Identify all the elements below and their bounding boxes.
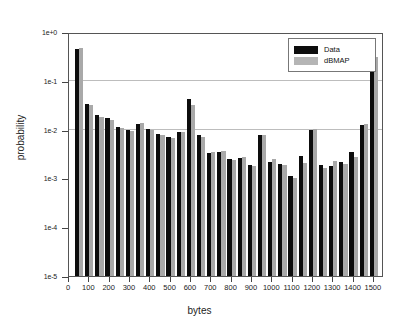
- x-tick-mark: [353, 277, 354, 282]
- bar-dbmap: [130, 131, 134, 276]
- x-tick-label: 100: [82, 283, 95, 292]
- bar-group: [146, 34, 154, 276]
- legend-item-dbmap: dBMAP: [294, 56, 370, 65]
- x-tick-mark: [88, 277, 89, 282]
- bar-group: [105, 34, 113, 276]
- bar-dbmap: [120, 128, 124, 276]
- bar-group: [166, 34, 174, 276]
- x-tick-label: 800: [224, 283, 237, 292]
- bar-dbmap: [374, 57, 378, 276]
- x-tick-label: 600: [184, 283, 197, 292]
- bar-dbmap: [160, 135, 164, 276]
- bar-dbmap: [221, 151, 225, 276]
- bar-dbmap: [89, 105, 93, 276]
- x-tick-mark: [109, 277, 110, 282]
- x-axis-title: bytes: [0, 305, 399, 316]
- x-tick-label: 1000: [263, 283, 280, 292]
- x-tick-mark: [373, 277, 374, 282]
- legend-swatch-dbmap-icon: [294, 57, 318, 65]
- bar-group: [75, 34, 83, 276]
- x-tick-label: 300: [123, 283, 136, 292]
- bar-dbmap: [313, 129, 317, 276]
- x-tick-mark: [292, 277, 293, 282]
- y-tick-label: 1e-5: [44, 273, 57, 280]
- legend-label-dbmap: dBMAP: [324, 56, 349, 65]
- bar-dbmap: [354, 157, 358, 276]
- x-tick-mark: [251, 277, 252, 282]
- bar-group: [258, 34, 266, 276]
- bar-dbmap: [232, 160, 236, 276]
- x-tick-mark: [68, 277, 69, 282]
- bar-group: [116, 34, 124, 276]
- bar-group: [156, 34, 164, 276]
- bar-group: [197, 34, 205, 276]
- bar-dbmap: [79, 48, 83, 276]
- bar-dbmap: [333, 161, 337, 276]
- bar-group: [187, 34, 195, 276]
- bar-dbmap: [252, 166, 256, 276]
- bar-dbmap: [211, 152, 215, 276]
- bar-dbmap: [242, 157, 246, 276]
- bar-dbmap: [272, 159, 276, 276]
- bar-dbmap: [150, 130, 154, 276]
- x-tick-mark: [190, 277, 191, 282]
- legend-item-data: Data: [294, 45, 370, 54]
- bar-dbmap: [191, 105, 195, 276]
- bar-dbmap: [262, 135, 266, 276]
- bar-group: [278, 34, 286, 276]
- y-tick-label: 1e-1: [44, 78, 57, 85]
- bar-dbmap: [181, 132, 185, 276]
- bar-dbmap: [99, 117, 103, 276]
- bar-dbmap: [323, 168, 327, 276]
- bar-group: [95, 34, 103, 276]
- bar-group: [238, 34, 246, 276]
- bar-group: [85, 34, 93, 276]
- x-tick-label: 0: [66, 283, 70, 292]
- x-tick-label: 500: [163, 283, 176, 292]
- bar-dbmap: [201, 137, 205, 276]
- bar-dbmap: [343, 164, 347, 276]
- bar-dbmap: [140, 123, 144, 276]
- x-tick-label: 200: [102, 283, 115, 292]
- y-tick-label: 1e-2: [44, 127, 57, 134]
- x-tick-label: 1300: [324, 283, 341, 292]
- x-tick-label: 1100: [283, 283, 299, 292]
- y-tick-label: 1e-3: [44, 175, 57, 182]
- x-tick-mark: [170, 277, 171, 282]
- x-tick-label: 900: [245, 283, 258, 292]
- chart-figure: probability 1e+01e-11e-21e-31e-41e-5 010…: [0, 0, 399, 334]
- bar-group: [248, 34, 256, 276]
- x-tick-mark: [210, 277, 211, 282]
- legend-label-data: Data: [324, 45, 340, 54]
- bar-group: [207, 34, 215, 276]
- x-tick-mark: [231, 277, 232, 282]
- bar-dbmap: [110, 120, 114, 276]
- x-tick-label: 1400: [344, 283, 361, 292]
- bar-group: [227, 34, 235, 276]
- bar-group: [126, 34, 134, 276]
- bar-group: [177, 34, 185, 276]
- x-tick-mark: [129, 277, 130, 282]
- y-tick-label: 1e-4: [44, 224, 57, 231]
- legend-swatch-data-icon: [294, 46, 318, 54]
- x-tick-label: 1500: [364, 283, 381, 292]
- x-tick-label: 700: [204, 283, 217, 292]
- bar-group: [136, 34, 144, 276]
- bar-dbmap: [171, 138, 175, 276]
- bar-group: [217, 34, 225, 276]
- x-tick-mark: [332, 277, 333, 282]
- bar-dbmap: [303, 163, 307, 276]
- bar-dbmap: [293, 178, 297, 276]
- bar-dbmap: [282, 165, 286, 276]
- bar-group: [268, 34, 276, 276]
- x-tick-mark: [149, 277, 150, 282]
- bar-dbmap: [364, 124, 368, 276]
- chart-legend: Data dBMAP: [288, 38, 376, 72]
- y-axis-title: probability: [15, 88, 26, 188]
- x-tick-mark: [271, 277, 272, 282]
- x-tick-label: 400: [143, 283, 156, 292]
- x-tick-label: 1200: [304, 283, 321, 292]
- y-tick-label: 1e+0: [42, 29, 57, 36]
- x-tick-mark: [312, 277, 313, 282]
